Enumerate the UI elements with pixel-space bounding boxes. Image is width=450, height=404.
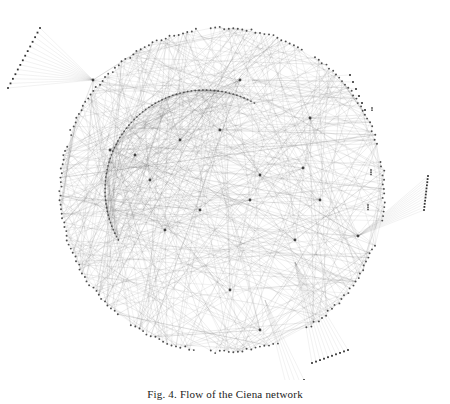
network-graph-canvas [0,0,450,380]
network-graph-figure [0,0,450,380]
figure-caption: Fig. 4. Flow of the Ciena network [0,388,450,404]
